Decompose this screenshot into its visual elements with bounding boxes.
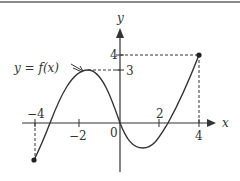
tick-label-x-neg4: −4 [27,107,45,121]
curve-label: y = f(x) [13,61,59,75]
x-axis-label: x [222,116,229,130]
curve-label-arrow-icon [71,64,83,72]
function-graph: y = f(x) y x −4 −2 0 2 4 3 4 [0,0,240,181]
tick-label-origin: 0 [110,126,118,140]
tick-label-y-3: 3 [126,64,134,78]
dashed-guides [35,55,199,160]
tick-label-x-2: 2 [156,107,164,121]
tick-label-x-neg2: −2 [69,129,87,143]
left-endpoint-dot [31,157,36,162]
y-axis-arrow-icon [116,28,124,38]
x-axis-arrow-icon [207,119,216,127]
right-endpoint-dot [196,52,201,57]
tick-label-x-4: 4 [195,129,203,143]
tick-label-y-4: 4 [110,48,118,62]
y-axis-label: y [116,11,124,25]
